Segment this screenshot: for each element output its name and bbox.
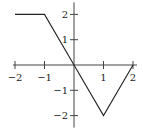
x-tick-label: −1 [37,72,52,83]
piecewise-function-graph: −2−11221−1−2 [0,0,143,132]
x-tick-label: 1 [100,72,106,83]
chart-canvas: −2−11221−1−2 [0,0,143,132]
y-tick-label: 1 [62,34,68,45]
x-tick-label: 2 [130,72,136,83]
y-tick-label: 2 [62,9,68,20]
y-tick-label: −1 [53,85,68,96]
x-tick-label: −2 [8,72,23,83]
y-tick-label: −2 [53,110,68,121]
